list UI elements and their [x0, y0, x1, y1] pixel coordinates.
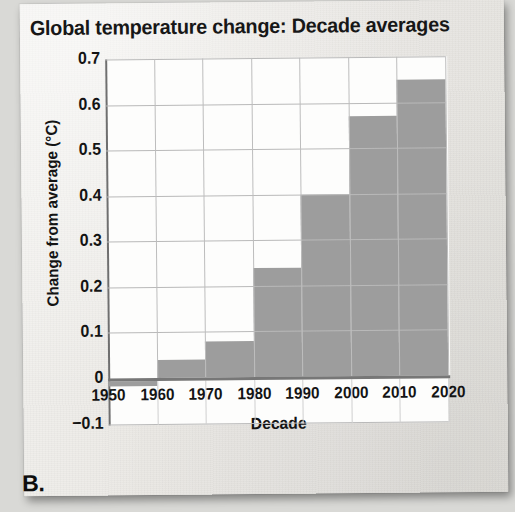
bar-1960: [157, 359, 206, 378]
y-axis-label: Change from average (°C): [43, 94, 63, 332]
y-tick-label: 0.4: [58, 185, 101, 205]
bar-1970: [205, 341, 254, 378]
bar-2000: [349, 116, 400, 376]
chart-figure: Global temperature change: Decade averag…: [20, 0, 509, 496]
y-tick-label: 0.5: [58, 140, 101, 160]
y-tick-label: 0.2: [59, 276, 102, 296]
y-tick-label: 0.3: [59, 231, 102, 251]
bar-1950: [108, 381, 157, 386]
figure-label: B.: [22, 470, 44, 497]
y-tick-label: 0.1: [59, 322, 102, 342]
y-tick-label: 0.7: [57, 49, 100, 69]
y-tick-label: −0.1: [60, 413, 103, 433]
bar-1980: [253, 267, 303, 377]
bar-2010: [397, 79, 448, 376]
y-tick-label: 0.6: [57, 94, 100, 114]
